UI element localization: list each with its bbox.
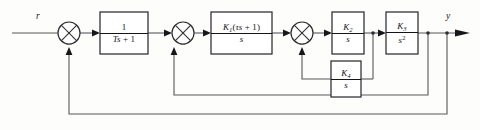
k2-denominator: s (344, 34, 352, 45)
pilead-denominator: s (238, 34, 246, 45)
block-diagram-canvas: r y − − − 1 Ts + 1 K1(τs + 1) s K2 s (0, 0, 480, 130)
wire-k4-to-sum3 (299, 47, 331, 79)
wire-pilead-to-sum3 (272, 30, 291, 37)
lag-block-expression: 1 Ts + 1 (100, 12, 148, 54)
k3-denominator: s2 (397, 33, 408, 45)
k2-numerator: K2 (341, 22, 355, 33)
output-signal-label: y (446, 12, 450, 22)
k4-denominator: s (342, 80, 350, 91)
wire-sum3-to-k2 (313, 30, 332, 37)
wire-sum2-to-pilead (194, 30, 211, 37)
sum1-bottom-sign: − (66, 40, 71, 49)
wire-k2-to-k3 (364, 30, 386, 37)
wire-inner-loop-tap (371, 31, 375, 79)
input-signal-label: r (36, 12, 40, 22)
wire-lag-to-sum2 (148, 30, 172, 37)
pilead-numerator: K1(τs + 1) (221, 22, 262, 33)
sum2-bottom-sign: − (180, 40, 185, 49)
lag-numerator: 1 (120, 22, 129, 33)
pilead-block-expression: K1(τs + 1) s (211, 12, 272, 54)
k3-block-expression: K3 s2 (386, 12, 418, 54)
k4-block-expression: K4 s (331, 61, 361, 97)
k2-block-expression: K2 s (332, 12, 364, 54)
sum3-bottom-sign: − (299, 40, 304, 49)
lag-denominator: Ts + 1 (111, 34, 137, 45)
k3-numerator: K3 (395, 21, 409, 32)
wire-sum1-to-lag (80, 30, 100, 37)
wire-k3-to-output (418, 30, 470, 37)
k4-numerator: K4 (339, 68, 353, 79)
